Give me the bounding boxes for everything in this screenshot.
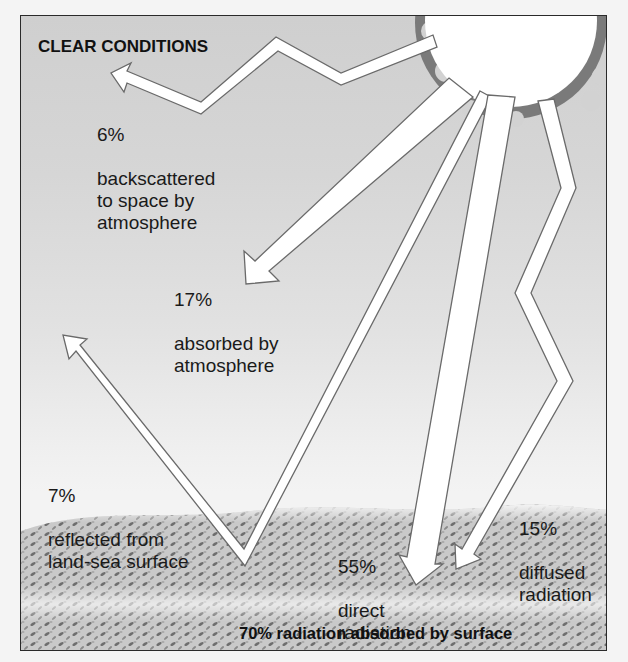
label-reflected: 7% reflected from land-sea surface <box>48 463 188 595</box>
label-backscattered: 6% backscattered to space by atmosphere <box>97 102 215 256</box>
percent-diffused: 15% <box>519 518 592 540</box>
text-reflected: reflected from land-sea surface <box>48 529 188 573</box>
percent-direct: 55% <box>338 556 411 578</box>
text-diffused: diffused radiation <box>519 562 592 606</box>
percent-reflected: 7% <box>48 485 188 507</box>
label-absorbed-atmosphere: 17% absorbed by atmosphere <box>174 267 279 399</box>
label-diffused: 15% diffused radiation <box>519 496 592 628</box>
text-absorbed-atmosphere: absorbed by atmosphere <box>174 333 279 377</box>
percent-backscattered: 6% <box>97 124 215 146</box>
diagram-title: CLEAR CONDITIONS <box>38 37 208 57</box>
text-backscattered: backscattered to space by atmosphere <box>97 168 215 234</box>
percent-absorbed-atmosphere: 17% <box>174 289 279 311</box>
footer-caption: 70% radiation absorbed by surface <box>239 624 512 643</box>
diagram-frame: CLEAR CONDITIONS 6% backscattered to spa… <box>20 15 607 651</box>
